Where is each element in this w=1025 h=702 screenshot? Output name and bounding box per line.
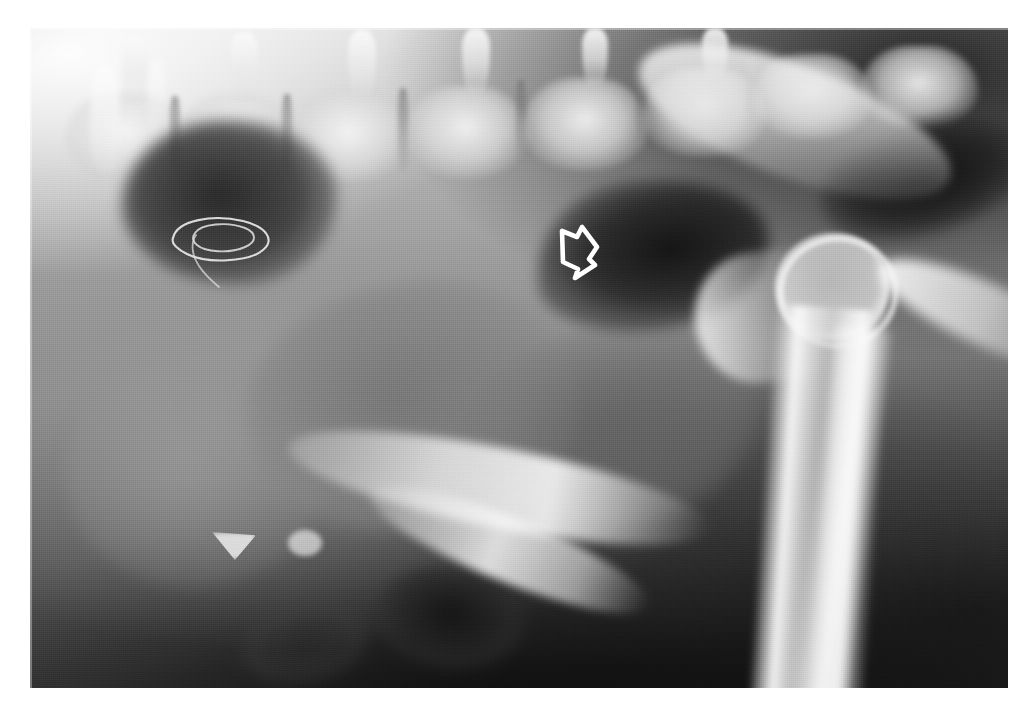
spinous-process-2: [230, 32, 258, 100]
rib-shadow-2: [148, 58, 166, 146]
radiograph-page: [0, 0, 1025, 702]
rib-shadow-1: [90, 64, 120, 174]
spinous-process-1: [122, 36, 148, 102]
mineral-opacity-2: [288, 530, 322, 556]
vertebral-body-4: [404, 86, 528, 178]
disc-space-4: [516, 80, 526, 162]
radiograph-film: [30, 28, 1008, 688]
spinous-process-5: [582, 28, 608, 86]
disc-space-3: [398, 88, 408, 170]
hollow-arrow-marker: [551, 218, 611, 286]
spinous-process-4: [462, 28, 490, 94]
vertebral-body-5: [522, 78, 648, 170]
spinous-process-3: [348, 30, 376, 100]
loop-marker: [155, 190, 285, 290]
